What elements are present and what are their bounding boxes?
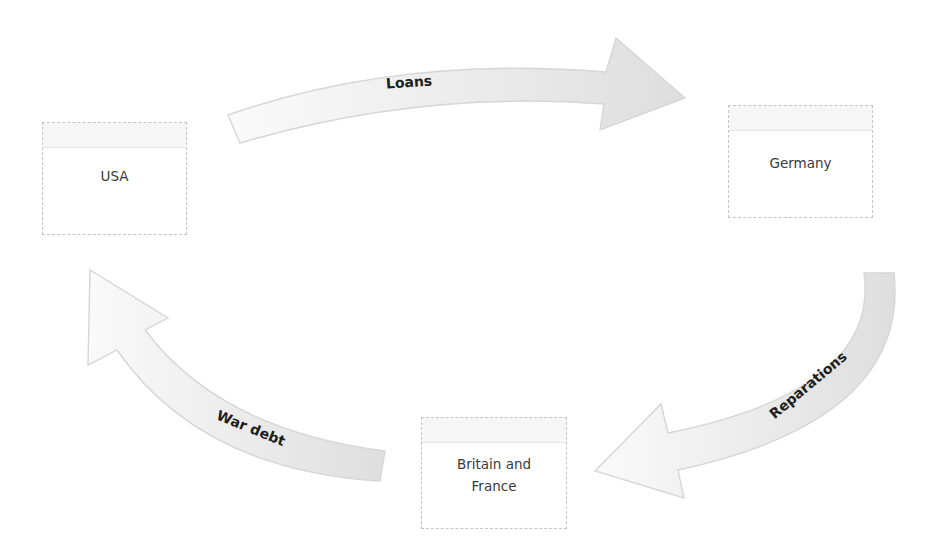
node-germany-label: Germany <box>729 153 872 174</box>
node-header-band <box>729 106 872 131</box>
node-britain-france-label-line1: Britain and <box>422 454 566 475</box>
arrow-up-left-icon <box>88 270 385 481</box>
node-germany: Germany <box>728 105 873 218</box>
loans-label: Loans <box>385 72 432 91</box>
node-usa-label: USA <box>43 166 186 187</box>
arrow-down-left-icon <box>595 273 895 498</box>
node-britain-france-label-line2: France <box>422 476 566 497</box>
arrow-right-icon <box>228 38 685 143</box>
node-header-band <box>43 123 186 148</box>
reparations-arrow: Reparations <box>595 273 895 498</box>
node-britain-france: Britain and France <box>421 417 567 529</box>
loans-arrow: Loans <box>228 38 685 143</box>
node-header-band <box>422 418 566 443</box>
node-usa: USA <box>42 122 187 235</box>
war-debt-arrow: War debt <box>88 270 385 481</box>
